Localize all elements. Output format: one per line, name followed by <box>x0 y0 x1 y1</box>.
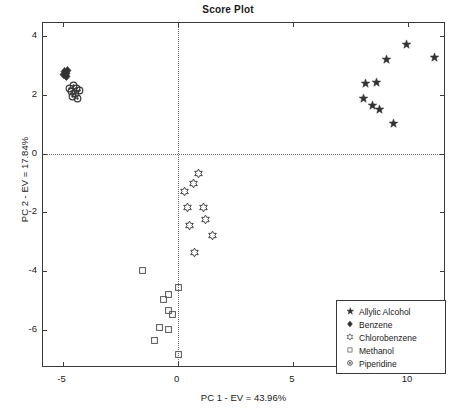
y-axis-tick <box>440 36 445 37</box>
data-point-methanol <box>137 265 148 276</box>
diamond-icon <box>343 318 359 331</box>
legend-item-methanol[interactable]: Methanol <box>337 344 445 357</box>
data-point-chlorobenzene <box>182 202 193 213</box>
data-point-piperidine <box>72 93 83 104</box>
legend-item-label: Methanol <box>359 346 394 356</box>
y-axis-tick <box>440 212 445 213</box>
legend-item-benzene[interactable]: Benzene <box>337 318 445 331</box>
circle-icon <box>343 357 359 370</box>
data-point-methanol <box>163 324 174 335</box>
x-axis-tick <box>63 22 64 27</box>
y-axis-tick <box>42 271 47 272</box>
score-plot-figure: Score Plot Allylic AlcoholBenzeneChlorob… <box>0 0 456 413</box>
x-axis-tick-label: 5 <box>272 373 312 384</box>
legend-item-piperidine[interactable]: Piperidine <box>337 357 445 370</box>
data-point-methanol <box>149 335 160 346</box>
legend-item-allylic-alcohol[interactable]: Allylic Alcohol <box>337 305 445 318</box>
gridline-y-zero <box>43 154 444 155</box>
y-axis-tick-label: -6 <box>7 323 37 334</box>
data-point-allylic-alcohol <box>360 78 371 89</box>
x-axis-tick-label: 10 <box>387 373 427 384</box>
x-axis-tick <box>178 22 179 27</box>
legend-item-label: Allylic Alcohol <box>359 307 411 317</box>
y-axis-tick <box>42 330 47 331</box>
hexagram-icon <box>343 331 359 344</box>
y-axis-tick-label: 4 <box>7 29 37 40</box>
data-point-allylic-alcohol <box>429 52 440 63</box>
x-axis-tick <box>293 22 294 27</box>
data-point-methanol <box>158 294 169 305</box>
data-point-chlorobenzene <box>189 247 200 258</box>
x-axis-tick <box>178 362 179 367</box>
data-point-methanol <box>173 282 184 293</box>
data-point-chlorobenzene <box>207 230 218 241</box>
legend-item-label: Chlorobenzene <box>359 333 417 343</box>
legend: Allylic AlcoholBenzeneChlorobenzeneMetha… <box>336 300 446 374</box>
data-point-chlorobenzene <box>184 220 195 231</box>
x-axis-label: PC 1 - EV = 43.96% <box>42 392 445 403</box>
data-point-methanol <box>173 349 184 360</box>
legend-item-chlorobenzene[interactable]: Chlorobenzene <box>337 331 445 344</box>
x-axis-tick-label: 0 <box>157 373 197 384</box>
y-axis-tick <box>440 271 445 272</box>
y-axis-tick <box>440 95 445 96</box>
data-point-chlorobenzene <box>179 186 190 197</box>
data-point-methanol <box>167 309 178 320</box>
page-title: Score Plot <box>0 4 456 15</box>
data-point-allylic-alcohol <box>401 39 412 50</box>
square-icon <box>343 344 359 357</box>
legend-item-label: Benzene <box>359 320 393 330</box>
y-axis-tick <box>42 212 47 213</box>
y-axis-label: PC 2 - EV = 17.84% <box>19 70 30 290</box>
data-point-allylic-alcohol <box>381 54 392 65</box>
y-axis-tick <box>42 36 47 37</box>
plot-area: Allylic AlcoholBenzeneChlorobenzeneMetha… <box>42 22 445 367</box>
x-axis-tick <box>63 362 64 367</box>
data-point-allylic-alcohol <box>374 104 385 115</box>
pentagram-star-icon <box>343 305 359 318</box>
y-axis-tick <box>42 95 47 96</box>
y-axis-tick <box>42 154 47 155</box>
x-axis-tick <box>408 22 409 27</box>
x-axis-tick <box>293 362 294 367</box>
data-point-allylic-alcohol <box>371 77 382 88</box>
data-point-piperidine <box>64 83 75 94</box>
legend-item-label: Piperidine <box>359 359 397 369</box>
x-axis-tick-label: -5 <box>42 373 82 384</box>
data-point-chlorobenzene <box>200 214 211 225</box>
y-axis-tick <box>440 154 445 155</box>
data-point-allylic-alcohol <box>388 118 399 129</box>
data-point-chlorobenzene <box>198 202 209 213</box>
